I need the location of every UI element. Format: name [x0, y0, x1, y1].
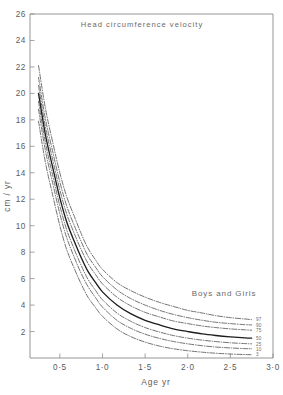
y-tick-label: 22 — [16, 63, 26, 72]
y-tick-label: 8 — [21, 248, 26, 257]
y-tick-label: 18 — [16, 116, 26, 125]
y-tick-label: 14 — [16, 169, 26, 178]
chart-title: Head circumference velocity — [81, 20, 203, 29]
chart-figure: 2468101214161820222426 0·51·01·52·02·53·… — [0, 0, 283, 395]
y-tick-label: 16 — [16, 142, 26, 151]
y-axis-title: cm / yr — [2, 180, 12, 211]
plot-frame — [30, 14, 273, 358]
x-tick-label: 0·5 — [53, 363, 67, 372]
percentile-curve-group — [39, 66, 252, 355]
percentile-curve-10 — [39, 109, 252, 348]
y-tick-label: 2 — [21, 328, 26, 337]
percentile-label-75: 75 — [256, 328, 262, 333]
x-tick-group: 0·51·01·52·02·53·0 — [53, 354, 280, 373]
chart-svg: 2468101214161820222426 0·51·01·52·02·53·… — [0, 0, 283, 395]
percentile-label-50: 50 — [256, 336, 262, 341]
y-tick-group: 2468101214161820222426 — [16, 10, 35, 337]
x-axis-title: Age yr — [141, 377, 171, 387]
y-tick-label: 26 — [16, 10, 26, 19]
y-tick-label: 10 — [16, 222, 26, 231]
percentile-curve-97 — [39, 66, 252, 320]
percentile-curve-25 — [39, 101, 252, 344]
y-tick-label: 6 — [21, 275, 26, 284]
x-tick-label: 2·0 — [181, 363, 195, 372]
percentile-label-10: 10 — [256, 347, 262, 352]
percentile-label-group: 9790755025103 — [256, 317, 262, 357]
y-tick-label: 20 — [16, 89, 26, 98]
x-tick-label: 2·5 — [224, 363, 238, 372]
y-tick-label: 4 — [21, 301, 26, 310]
y-tick-label: 12 — [16, 195, 26, 204]
x-tick-label: 1·5 — [138, 363, 152, 372]
y-tick-label: 24 — [16, 36, 26, 45]
percentile-label-90: 90 — [256, 323, 262, 328]
percentile-label-3: 3 — [256, 352, 259, 357]
percentile-label-97: 97 — [256, 317, 262, 322]
series-annotation: Boys and Girls — [192, 289, 257, 298]
percentile-curve-90 — [39, 78, 252, 325]
x-tick-label: 3·0 — [266, 363, 280, 372]
x-tick-label: 1·0 — [96, 363, 110, 372]
